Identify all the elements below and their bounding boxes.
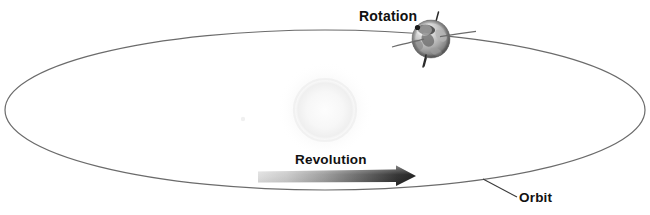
- rotation-label: Rotation: [359, 8, 417, 24]
- earth-globe: [412, 20, 450, 58]
- sun-glow: [277, 62, 373, 158]
- diagram-canvas: [0, 0, 650, 215]
- orbit-leader-line: [483, 179, 517, 197]
- orbit-diagram: Rotation Revolution Orbit: [0, 0, 650, 215]
- revolution-arrow: [258, 166, 416, 187]
- revolution-label: Revolution: [295, 152, 367, 167]
- background-speck: [241, 117, 245, 121]
- orbit-label: Orbit: [519, 190, 552, 205]
